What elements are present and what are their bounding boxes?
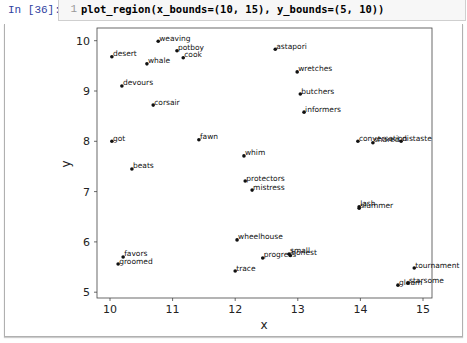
point-label: mistress — [253, 183, 285, 192]
y-tick-label: 6 — [83, 236, 90, 249]
point-label: desert — [113, 49, 137, 58]
point-label: beats — [133, 161, 154, 170]
y-axis-ticks: 5678910 — [76, 35, 97, 300]
x-tick-label: 14 — [353, 303, 367, 316]
y-tick-label: 10 — [76, 35, 90, 48]
data-point: weaving — [156, 34, 190, 43]
data-point: desert — [110, 49, 137, 58]
data-point: butchers — [299, 87, 335, 96]
data-point: starsome — [406, 276, 444, 285]
data-point: mistress — [250, 183, 284, 192]
point-label: wheelhouse — [238, 232, 283, 241]
point-label: starsome — [409, 276, 444, 285]
scatter-plot: 101112131415 5678910 weavingpotboycookde… — [0, 0, 467, 343]
data-point: corsair — [151, 98, 180, 107]
y-tick-label: 7 — [83, 186, 90, 199]
point-label: butchers — [301, 87, 334, 96]
y-axis-label: y — [59, 160, 73, 167]
point-label: cook — [184, 50, 202, 59]
data-point: got — [110, 134, 125, 143]
point-label: shared — [374, 135, 400, 144]
y-tick-label: 8 — [83, 135, 90, 148]
point-label: wretches — [298, 64, 332, 73]
point-label: informers — [305, 105, 341, 114]
point-label: whale — [148, 56, 171, 65]
data-point: devours — [120, 78, 153, 87]
point-label: fawn — [200, 132, 218, 141]
point-label: protectors — [246, 174, 285, 183]
data-point: whim — [242, 148, 265, 157]
x-axis-ticks: 101112131415 — [103, 298, 430, 316]
data-point: wheelhouse — [235, 232, 283, 241]
x-tick-label: 11 — [166, 303, 180, 316]
data-point: shared — [371, 135, 400, 144]
point-label: weaving — [159, 34, 191, 43]
point-label: groomed — [119, 257, 153, 266]
point-label: trace — [236, 264, 256, 273]
data-point: informers — [302, 105, 341, 114]
data-point: fawn — [197, 132, 218, 141]
data-point: groomed — [116, 257, 153, 266]
data-point: distaste — [399, 134, 432, 143]
point-label: devours — [123, 78, 153, 87]
data-point: tournament — [412, 261, 459, 270]
data-point: slummer — [357, 201, 394, 210]
point-label: tournament — [415, 261, 459, 270]
point-label: slummer — [360, 201, 394, 210]
data-point: whale — [145, 56, 170, 65]
point-label: distaste — [402, 134, 432, 143]
x-axis-label: x — [260, 318, 267, 332]
x-tick-label: 15 — [416, 303, 430, 316]
data-point: trace — [233, 264, 256, 273]
point-label: corsair — [154, 98, 180, 107]
y-tick-label: 5 — [83, 286, 90, 299]
data-point: honest — [288, 248, 316, 257]
data-point: beats — [130, 161, 154, 170]
data-point: protectors — [243, 174, 284, 183]
x-tick-label: 10 — [103, 303, 117, 316]
y-tick-label: 9 — [83, 85, 90, 98]
x-tick-label: 13 — [291, 303, 305, 316]
x-tick-label: 12 — [228, 303, 242, 316]
data-point: astapori — [273, 42, 306, 51]
point-label: astapori — [276, 42, 307, 51]
point-label: honest — [291, 248, 317, 257]
data-point: wretches — [295, 64, 332, 73]
data-point: cook — [181, 50, 202, 59]
point-label: whim — [245, 148, 265, 157]
point-label: got — [113, 134, 125, 143]
